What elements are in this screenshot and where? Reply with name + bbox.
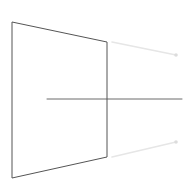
lower-guide-endpoint-marker: [174, 140, 178, 144]
line-drawing-svg: [0, 0, 194, 183]
drawing-canvas: [0, 0, 194, 183]
canvas-background: [0, 0, 194, 183]
upper-guide-endpoint-marker: [174, 53, 178, 57]
